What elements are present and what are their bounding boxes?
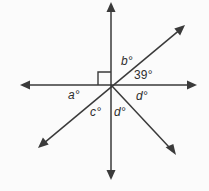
arrow-head-bottom — [107, 170, 116, 180]
angle-label-b: b° — [121, 55, 133, 67]
angle-label-39: 39° — [134, 69, 153, 81]
arrow-head-left — [20, 81, 30, 90]
angle-label-a: a° — [68, 89, 80, 101]
angle-label-d-right: d° — [136, 90, 148, 102]
right-angle-icon — [98, 72, 111, 85]
arrow-head-right — [187, 81, 197, 90]
angle-label-c: c° — [90, 106, 101, 118]
arrow-head-top — [107, 2, 116, 12]
geometry-canvas — [0, 0, 209, 191]
angle-label-d-lower: d° — [114, 106, 126, 118]
arrow-head-lower-left — [38, 138, 49, 149]
angle-diagram-figure: b° 39° a° c° d° d° — [0, 0, 209, 191]
